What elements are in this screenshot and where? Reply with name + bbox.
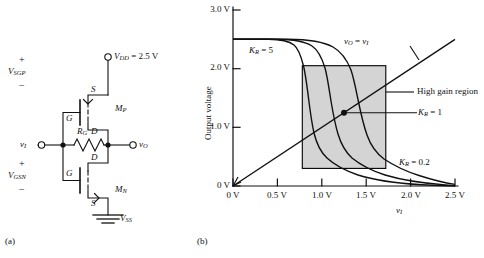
vdd-label: VDD = 2.5 V: [114, 51, 158, 61]
nmos-gate-terminal-label: G: [66, 168, 73, 178]
x-tick-label-1v: 1.0 V: [302, 190, 342, 200]
x-axis-title: vI: [396, 205, 402, 215]
panel-a-tag: (a): [5, 236, 15, 246]
nmos-source-terminal-label: S: [91, 198, 96, 208]
vss-label: VSS: [120, 213, 132, 223]
vo-label: vO: [139, 139, 148, 149]
vsgp-plus-sign: +: [19, 54, 25, 65]
kr5-annotation: KR = 5: [249, 45, 273, 55]
nmos-label: MN: [115, 184, 127, 194]
panel-b-tag: (b): [197, 236, 208, 246]
vi-label: vI: [20, 139, 26, 149]
y-tick-label-3v: 3.0 V: [200, 4, 230, 14]
high-gain-region-rect: [302, 66, 386, 169]
pmos-gate-terminal-label: G: [66, 113, 73, 123]
vsgp-minus-sign: −: [19, 80, 25, 91]
kr02-annotation: KR = 0.2: [399, 157, 430, 167]
vgsn-plus-sign: +: [19, 158, 25, 169]
vgsn-label: VGSN: [8, 170, 26, 180]
rg-resistor-zigzag: [74, 139, 104, 151]
vdd-terminal-node: [105, 54, 111, 60]
y-axis-title: Output voltage: [203, 86, 213, 140]
y-tick-label-1v: 1.0 V: [200, 121, 230, 131]
vtc-chart-svg: [200, 0, 484, 258]
pmos-drain-terminal-label: D: [91, 126, 98, 136]
vi-terminal-node: [38, 142, 44, 148]
high-gain-region-annotation: High gain region: [417, 86, 478, 96]
vsgp-label: VSGP: [8, 66, 25, 76]
vo-terminal-node: [130, 142, 136, 148]
x-tick-label-0-5v: 0.5 V: [257, 190, 297, 200]
pmos-source-lead: [88, 95, 108, 103]
vgsn-minus-sign: −: [19, 184, 25, 195]
vo-vi-annotation: vO = vI: [344, 36, 368, 46]
circuit-diagram-svg: [0, 0, 200, 258]
kr1-annotation: KR = 1: [418, 107, 442, 117]
x-tick-label-2-5v: 2.5 V: [435, 190, 475, 200]
figure-container: VDD = 2.5 V VSS vI vO RG MP MN + VSGP − …: [0, 0, 484, 258]
pmos-source-terminal-label: S: [91, 84, 96, 94]
x-tick-label-0v: 0 V: [213, 190, 253, 200]
y-tick-label-0v: 0 V: [200, 180, 230, 190]
y-tick-label-2v: 2.0 V: [200, 62, 230, 72]
pmos-label: MP: [115, 103, 126, 113]
nmos-drain-terminal-label: D: [91, 152, 98, 162]
x-tick-label-1-5v: 1.5 V: [346, 190, 386, 200]
vo-vi-leader-line: [410, 46, 419, 60]
x-tick-label-2v: 2.0 V: [391, 190, 431, 200]
rg-label: RG: [77, 126, 87, 136]
